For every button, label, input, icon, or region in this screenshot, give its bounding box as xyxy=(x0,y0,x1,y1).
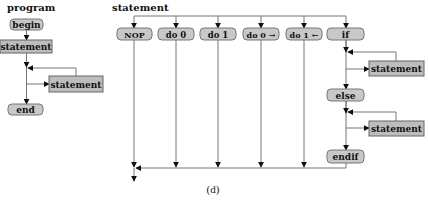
grammar-flow-diagram: program begin statement statement end st… xyxy=(0,0,428,201)
program-title: program xyxy=(7,2,56,13)
statement-diagram: statement NOP do 0 do 1 do 0 → do 1 ← if xyxy=(112,2,424,181)
figure-caption: (d) xyxy=(207,183,220,196)
then-loop-back xyxy=(348,52,396,61)
else-label: else xyxy=(336,91,356,101)
begin-label: begin xyxy=(12,20,41,30)
program-diagram: program begin statement statement end xyxy=(0,2,103,115)
bottom-bus-line xyxy=(136,163,346,168)
then-statement-label: statement xyxy=(371,64,423,74)
statement-title: statement xyxy=(112,2,169,13)
else-loop-back xyxy=(348,112,396,121)
statement-label-1: statement xyxy=(1,42,53,52)
arrow-loop-back xyxy=(28,68,76,76)
endif-label: endif xyxy=(333,152,360,162)
nop-label: NOP xyxy=(124,30,144,40)
do0-right-label: do 0 → xyxy=(247,30,276,40)
if-label: if xyxy=(342,30,350,40)
do1-label: do 1 xyxy=(208,30,229,40)
do1-left-label: do 1 ← xyxy=(290,30,319,40)
do0-label: do 0 xyxy=(166,30,187,40)
statement-label-loop: statement xyxy=(51,80,103,90)
else-statement-label: statement xyxy=(371,124,423,134)
end-label: end xyxy=(16,105,35,115)
